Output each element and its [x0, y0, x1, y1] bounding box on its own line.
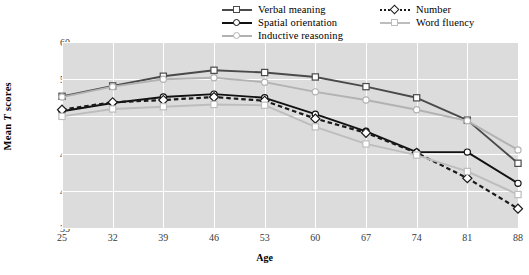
plot-area	[62, 42, 518, 228]
chart-legend: Verbal meaningSpatial orientationInducti…	[222, 2, 522, 42]
data-point-circle-icon	[464, 149, 470, 155]
data-point-square-icon	[414, 95, 420, 101]
legend-label: Verbal meaning	[258, 4, 326, 15]
legend-label: Spatial orientation	[258, 17, 337, 28]
data-point-square-icon	[262, 69, 268, 75]
x-tick-label: 25	[42, 232, 82, 243]
data-point-circle-icon	[59, 94, 65, 100]
data-point-square-icon	[464, 168, 470, 174]
data-point-square-icon	[414, 152, 420, 158]
data-point-circle-icon	[312, 89, 318, 95]
data-point-square-icon	[363, 84, 369, 90]
x-tick-label: 32	[93, 232, 133, 243]
series-lines	[62, 42, 518, 228]
legend-label: Number	[416, 4, 451, 15]
legend-item-verbal-meaning[interactable]: Verbal meaning	[222, 3, 326, 15]
legend-marker-square-icon	[391, 19, 398, 26]
legend-marker-circle-icon	[233, 32, 240, 39]
data-point-square-icon	[312, 124, 318, 130]
series-spatial-orientation	[59, 91, 521, 186]
legend-marker-diamond-icon	[390, 4, 400, 14]
data-point-circle-icon	[211, 75, 217, 81]
x-tick-label: 81	[447, 232, 487, 243]
data-point-circle-icon	[414, 107, 420, 113]
data-point-square-icon	[515, 160, 521, 166]
data-point-circle-icon	[363, 97, 369, 103]
data-point-square-icon	[312, 74, 318, 80]
legend-item-spatial-orientation[interactable]: Spatial orientation	[222, 16, 337, 28]
x-tick-label: 60	[295, 232, 335, 243]
data-point-circle-icon	[515, 147, 521, 153]
data-point-square-icon	[160, 104, 166, 110]
x-tick-label: 46	[194, 232, 234, 243]
series-path	[62, 78, 518, 150]
x-tick-label: 39	[143, 232, 183, 243]
legend-marker-square-icon	[233, 6, 240, 13]
gridline-vertical	[518, 42, 519, 228]
legend-swatch	[222, 17, 252, 28]
data-point-circle-icon	[110, 84, 116, 90]
series-path	[62, 105, 518, 195]
legend-swatch	[222, 30, 252, 41]
data-point-square-icon	[59, 113, 65, 119]
x-tick-label: 88	[498, 232, 529, 243]
legend-item-word-fluency[interactable]: Word fluency	[380, 16, 474, 28]
legend-label: Word fluency	[416, 17, 474, 28]
legend-item-inductive-reasoning[interactable]: Inductive reasoning	[222, 29, 343, 41]
data-point-square-icon	[110, 106, 116, 112]
data-point-square-icon	[262, 102, 268, 108]
legend-marker-circle-icon	[233, 19, 240, 26]
data-point-circle-icon	[262, 79, 268, 85]
x-axis-title: Age	[0, 252, 529, 263]
x-tick-label: 74	[397, 232, 437, 243]
data-point-square-icon	[363, 141, 369, 147]
gridline-horizontal	[62, 228, 518, 229]
legend-swatch	[380, 17, 410, 28]
legend-swatch	[380, 4, 410, 15]
data-point-square-icon	[211, 101, 217, 107]
chart-figure: Verbal meaningSpatial orientationInducti…	[0, 0, 529, 275]
data-point-square-icon	[515, 191, 521, 197]
y-axis-title: Mean T scores	[2, 82, 18, 150]
data-point-circle-icon	[160, 76, 166, 82]
legend-item-number[interactable]: Number	[380, 3, 451, 15]
data-point-square-icon	[211, 67, 217, 73]
data-point-circle-icon	[464, 118, 470, 124]
series-word-fluency	[59, 101, 521, 197]
legend-label: Inductive reasoning	[258, 30, 343, 41]
x-tick-label: 67	[346, 232, 386, 243]
data-point-circle-icon	[515, 180, 521, 186]
legend-swatch	[222, 4, 252, 15]
x-tick-label: 53	[245, 232, 285, 243]
